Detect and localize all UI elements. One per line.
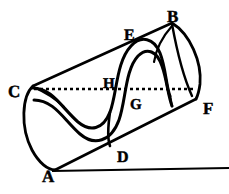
chord-bf-line [172, 24, 192, 96]
geometric-figure: A B C D E F G H [0, 0, 229, 194]
vertex-label-G: G [130, 98, 142, 113]
vertex-label-C: C [8, 83, 20, 100]
figure-canvas [0, 0, 229, 194]
vertex-label-A: A [42, 168, 54, 185]
vertex-label-F: F [203, 100, 213, 117]
vertex-label-H: H [103, 77, 115, 92]
vertex-label-D: D [117, 150, 129, 166]
baseline-horizontal [52, 168, 229, 171]
band-lower-tail [108, 112, 110, 146]
left-cap-arc [24, 86, 55, 170]
vertex-label-E: E [124, 28, 135, 44]
band-lower-curve [34, 51, 172, 140]
right-cap-arc [172, 23, 200, 99]
vertex-label-B: B [167, 8, 178, 25]
